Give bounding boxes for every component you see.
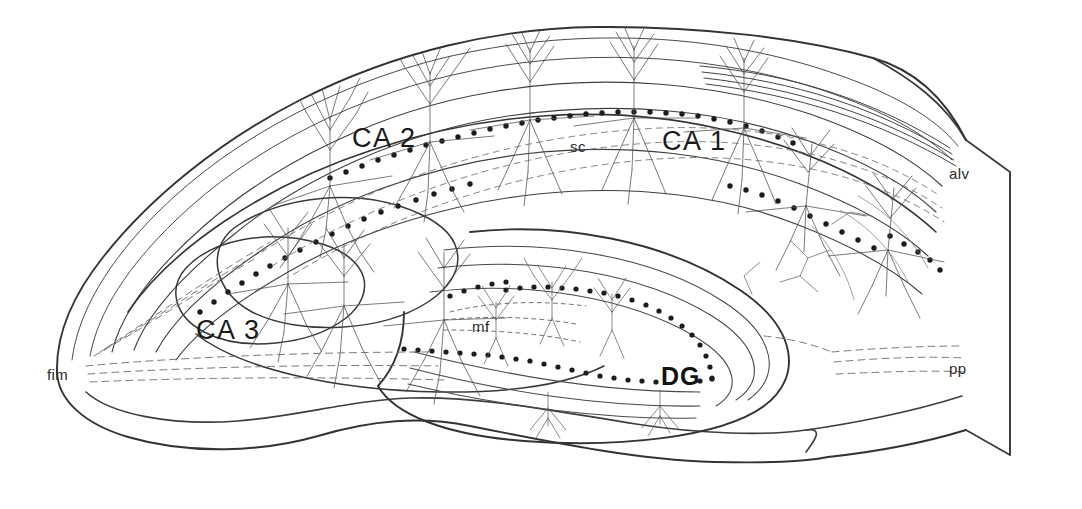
ca-inner-separating-curve (128, 114, 936, 312)
perforant-path-fibers (764, 336, 964, 374)
ca-band-outer (72, 38, 958, 360)
label-pp: pp (949, 361, 967, 376)
label-mf: mf (472, 319, 489, 334)
label-fim: fim (47, 367, 68, 382)
label-sc: sc (570, 139, 586, 154)
label-dg: DG (661, 364, 701, 389)
granule-neurons (478, 258, 678, 438)
block-top-cut-edge (873, 58, 966, 140)
ca-band-radiatum (112, 82, 942, 352)
hippocampus-diagram (0, 0, 1082, 509)
label-ca2: CA 2 (352, 125, 417, 152)
block-right-face (966, 140, 1010, 455)
pyramidal-neurons (228, 24, 944, 404)
block-bottom-thickness (86, 392, 962, 452)
ca-band-oriens (156, 149, 928, 360)
mossy-fibers (444, 303, 586, 342)
figure-canvas: CA 3 CA 2 CA 1 DG fim mf sc alv pp (0, 0, 1082, 509)
label-alv: alv (949, 166, 969, 181)
label-ca3: CA 3 (196, 317, 261, 344)
subiculum-fiber-sketch (744, 212, 872, 294)
fimbria-fibers (86, 242, 444, 382)
label-ca1: CA 1 (662, 128, 727, 155)
